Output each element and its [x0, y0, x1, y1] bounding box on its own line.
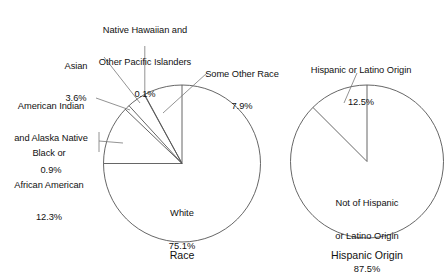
- hispanic-inside-label-value: 87.5%: [313, 264, 421, 272]
- callout-black-value: 12.3%: [2, 212, 96, 223]
- callout-some-other-race: Some Other Race 7.9%: [196, 48, 288, 133]
- pie-chart-figure: Native Hawaiian and Other Pacific Island…: [0, 0, 448, 272]
- callout-black-line1: Black or: [2, 148, 96, 159]
- callout-black-line2: African American: [2, 180, 96, 191]
- callout-native-hawaiian-line1: Native Hawaiian and: [78, 25, 212, 36]
- callout-american-indian-line1: American Indian: [6, 101, 96, 112]
- callout-hispanic-latino-line1: Hispanic or Latino Origin: [288, 65, 434, 76]
- hispanic-caption: Hispanic Origin: [312, 249, 422, 261]
- race-inside-label-white-name: White: [152, 208, 212, 219]
- hispanic-inside-label-line1: Not of Hispanic: [313, 198, 421, 209]
- hispanic-inside-label-line2: or Latino Origin: [313, 231, 421, 242]
- callout-hispanic-latino-value: 12.5%: [288, 97, 434, 108]
- race-caption: Race: [152, 249, 212, 261]
- callout-asian-line1: Asian: [48, 61, 104, 72]
- callout-some-other-race-line1: Some Other Race: [196, 69, 288, 80]
- callout-black-african-american: Black or African American 12.3%: [2, 127, 96, 244]
- callout-hispanic-latino-origin: Hispanic or Latino Origin 12.5%: [288, 44, 434, 129]
- leader-line-black-tick: [99, 141, 123, 143]
- callout-some-other-race-value: 7.9%: [196, 101, 288, 112]
